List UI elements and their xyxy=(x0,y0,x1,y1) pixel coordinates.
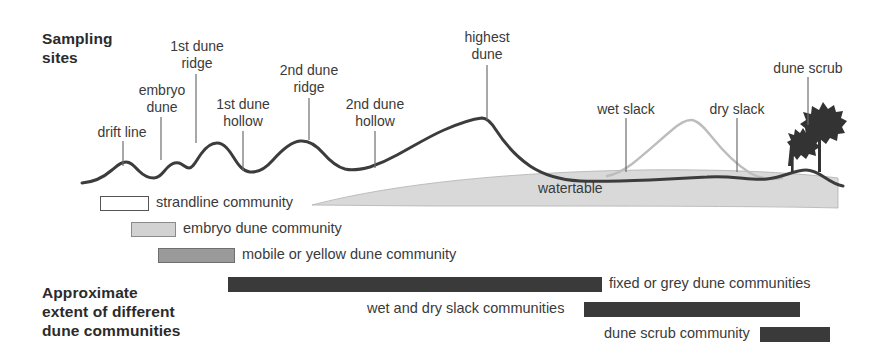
community-bar-fixed-or-grey-dune-communities xyxy=(228,277,602,292)
dune-scrub-trees-icon xyxy=(787,102,847,172)
site-label-2nd-dune-hollow: 2nd dune hollow xyxy=(330,96,420,130)
community-label-embryo-dune-community: embryo dune community xyxy=(183,220,342,237)
community-label-mobile-or-yellow-dune-community: mobile or yellow dune community xyxy=(242,246,456,263)
dune-succession-diagram: Sampling sites Approximate extent of dif… xyxy=(0,0,869,360)
community-label-wet-and-dry-slack-communities: wet and dry slack communities xyxy=(367,300,564,317)
community-label-strandline-community: strandline community xyxy=(156,194,293,211)
site-label-wet-slack: wet slack xyxy=(581,101,671,118)
community-bar-dune-scrub-community xyxy=(760,327,830,342)
site-label-2nd-dune-ridge: 2nd dune ridge xyxy=(264,62,354,96)
approximate-extent-title: Approximate extent of different dune com… xyxy=(42,283,181,340)
community-label-dune-scrub-community: dune scrub community xyxy=(604,325,750,342)
site-label-drift-line: drift line xyxy=(82,124,162,141)
community-bar-mobile-or-yellow-dune-community xyxy=(158,248,235,263)
community-label-fixed-or-grey-dune-communities: fixed or grey dune communities xyxy=(609,275,811,292)
site-label-dry-slack: dry slack xyxy=(692,101,782,118)
site-label-embryo-dune: embryo dune xyxy=(117,82,207,116)
site-label-1st-dune-hollow: 1st dune hollow xyxy=(198,96,288,130)
sampling-sites-title: Sampling sites xyxy=(42,29,113,67)
site-label-1st-dune-ridge: 1st dune ridge xyxy=(152,38,242,72)
community-bar-strandline-community xyxy=(100,196,149,211)
site-label-dune-scrub: dune scrub xyxy=(753,60,863,77)
watertable-label: watertable xyxy=(538,180,603,196)
site-label-highest-dune: highest dune xyxy=(442,29,532,63)
community-bar-wet-and-dry-slack-communities xyxy=(584,302,800,317)
community-bar-embryo-dune-community xyxy=(131,222,176,237)
